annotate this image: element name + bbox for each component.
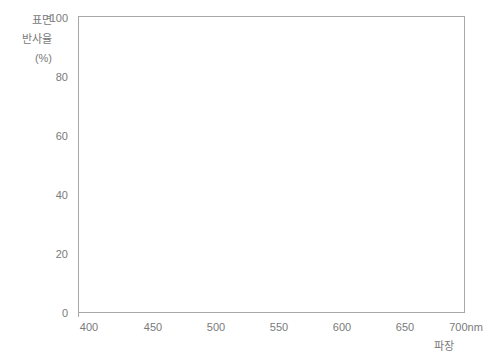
x-tick-label: 650 bbox=[396, 322, 414, 333]
x-tick-label: 400 bbox=[80, 322, 98, 333]
x-tick-label: 550 bbox=[270, 322, 288, 333]
x-axis-title: 파장 bbox=[400, 341, 488, 352]
x-tick-label: 450 bbox=[144, 322, 162, 333]
x-axis-tick-labels: 400 450 500 550 600 650 700nm bbox=[0, 0, 496, 363]
x-tick-label: 500 bbox=[207, 322, 225, 333]
x-tick-label: 600 bbox=[333, 322, 351, 333]
x-tick-label: 700nm bbox=[449, 322, 483, 333]
